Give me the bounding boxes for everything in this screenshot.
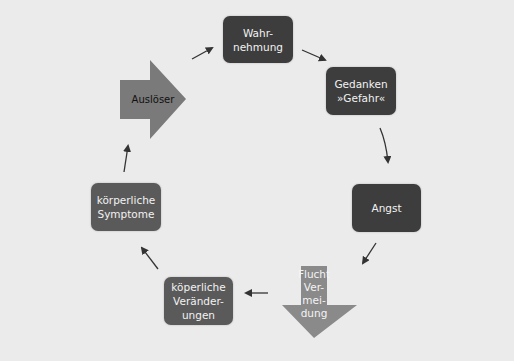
node-symptome-label: körperliche Symptome [97, 193, 156, 221]
node-gedanken: Gedanken »Gefahr« [326, 67, 396, 115]
node-veraenderungen-label: köperliche Verän­der- ungen [171, 280, 225, 322]
node-gedanken-label: Gedanken »Gefahr« [334, 77, 387, 105]
arrow-ausloeser-to-wahrnehmung [192, 48, 212, 59]
node-wahrnehmung-label: Wahr- nehmung [233, 26, 283, 54]
flucht-label: Flucht Ver- mei- dung [296, 268, 332, 320]
arrow-symptome-to-ausloeser [124, 146, 128, 172]
node-symptome: körperliche Symptome [91, 183, 161, 231]
arrow-wahrnehmung-to-gedanken [302, 50, 325, 60]
node-angst-label: Angst [371, 201, 401, 215]
arrow-gedanken-to-angst [380, 128, 388, 162]
arrow-veraenderungen-to-symptome [142, 248, 158, 269]
arrow-angst-to-flucht [363, 243, 376, 263]
anxiety-cycle-diagram: Auslöser Wahr- nehmung Gedanken »Gefahr«… [0, 0, 514, 361]
ausloeser-label: Auslöser [128, 93, 178, 106]
node-angst: Angst [352, 184, 421, 232]
node-veraenderungen: köperliche Verän­der- ungen [164, 277, 233, 325]
node-wahrnehmung: Wahr- nehmung [223, 16, 293, 63]
